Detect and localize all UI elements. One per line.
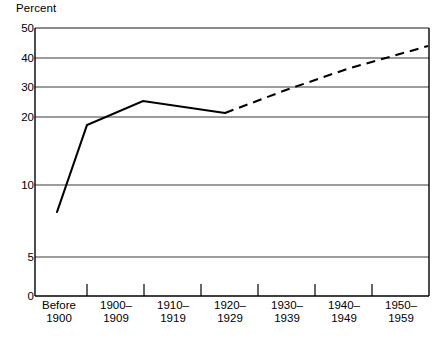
x-tick-label-line1: 1940– (315, 299, 373, 312)
x-axis-ticks (87, 284, 372, 296)
x-tick-label-line1: 1920– (201, 299, 259, 312)
x-tick-label-line2: 1959 (372, 312, 430, 325)
series-observed-line (57, 101, 225, 212)
x-tick-label-line2: 1929 (201, 312, 259, 325)
x-tick-label-line2: 1949 (315, 312, 373, 325)
x-tick-label-line2: 1919 (144, 312, 202, 325)
y-tick-label-10: 10 (8, 179, 34, 191)
y-tick-label-20: 20 (8, 111, 34, 123)
x-tick-label-line2: 1909 (87, 312, 145, 325)
x-tick-label-1950-1959: 1950– 1959 (372, 299, 430, 325)
x-tick-label-1930-1939: 1930– 1939 (258, 299, 316, 325)
x-tick-label-line1: 1910– (144, 299, 202, 312)
x-tick-label-before-1900: Before 1900 (30, 299, 88, 325)
series-projected-line (225, 46, 428, 113)
x-tick-label-line2: 1900 (30, 312, 88, 325)
plot-area (0, 0, 437, 338)
y-tick-label-40: 40 (8, 52, 34, 64)
axis-lines (35, 28, 429, 296)
x-tick-label-1910-1919: 1910– 1919 (144, 299, 202, 325)
y-tick-label-30: 30 (8, 81, 34, 93)
y-tick-label-5: 5 (8, 251, 34, 263)
x-tick-label-line1: 1930– (258, 299, 316, 312)
x-tick-label-line2: 1939 (258, 312, 316, 325)
x-tick-label-1920-1929: 1920– 1929 (201, 299, 259, 325)
x-tick-label-line1: 1900– (87, 299, 145, 312)
x-tick-label-1940-1949: 1940– 1949 (315, 299, 373, 325)
chart-figure: Percent 50 40 30 20 10 5 0 Before 1900 1… (0, 0, 437, 338)
x-tick-label-line1: Before (30, 299, 88, 312)
y-tick-label-50: 50 (8, 22, 34, 34)
x-tick-label-line1: 1950– (372, 299, 430, 312)
y-axis-title: Percent (16, 2, 56, 15)
x-tick-label-1900-1909: 1900– 1909 (87, 299, 145, 325)
